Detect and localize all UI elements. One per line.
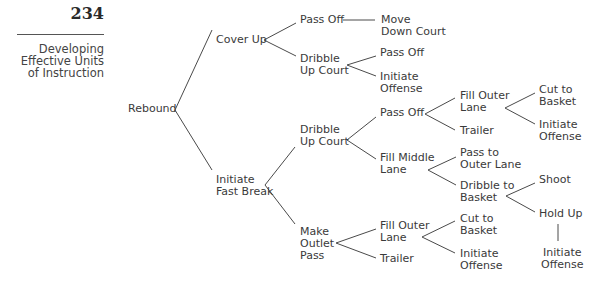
node-fb-fill-middle-lane: Fill Middle Lane bbox=[380, 152, 435, 176]
node-fb-dribble-up-court: Dribble Up Court bbox=[300, 124, 349, 148]
node-fb-dtb-hold-up: Hold Up bbox=[539, 208, 583, 220]
node-rebound: Rebound bbox=[128, 103, 177, 115]
node-fb-mop-fol-cut-to-basket: Cut to Basket bbox=[460, 213, 497, 237]
node-label: Offense bbox=[541, 259, 583, 271]
node-fb-mop-trailer: Trailer bbox=[380, 253, 414, 265]
connector-cu-dribble bbox=[347, 56, 376, 76]
connector-fb-pass-off bbox=[425, 98, 455, 130]
node-label: Trailer bbox=[380, 253, 414, 265]
node-cu-move-down-court: Move Down Court bbox=[381, 14, 446, 38]
node-fb-fml-dribble-to-basket: Dribble to Basket bbox=[460, 180, 514, 204]
node-label: Pass Off bbox=[380, 47, 424, 59]
node-label: Rebound bbox=[128, 103, 177, 115]
node-cu-duc-pass-off: Pass Off bbox=[380, 47, 424, 59]
node-label: Basket bbox=[539, 96, 576, 108]
node-fb-mop-fill-outer-lane: Fill Outer Lane bbox=[380, 220, 429, 244]
tree-connectors bbox=[0, 0, 595, 284]
node-fb-make-outlet-pass: Make Outlet Pass bbox=[300, 226, 334, 262]
node-label: Pass Off bbox=[380, 107, 424, 119]
node-cu-duc-initiate-offense: Initiate Offense bbox=[380, 71, 422, 95]
node-label: Hold Up bbox=[539, 208, 583, 220]
node-label: Offense bbox=[460, 260, 502, 272]
node-initiate-fast-break: Initiate Fast Break bbox=[216, 174, 273, 198]
node-fb-hu-initiate-offense: Initiate Offense bbox=[541, 247, 583, 271]
node-fb-po-fol-cut-to-basket: Cut to Basket bbox=[539, 84, 576, 108]
node-fb-mop-fol-initiate-offense: Initiate Offense bbox=[460, 248, 502, 272]
node-fb-po-trailer: Trailer bbox=[460, 125, 494, 137]
node-label: Pass Off bbox=[300, 14, 344, 26]
node-label: Lane bbox=[460, 102, 509, 114]
node-cover-up: Cover Up bbox=[216, 34, 267, 46]
connector-outlet-pass bbox=[336, 229, 376, 258]
connector-fb-dribble bbox=[347, 117, 376, 159]
node-fb-po-fol-initiate-offense: Initiate Offense bbox=[539, 119, 581, 143]
node-label: Offense bbox=[539, 131, 581, 143]
connector-fb-fill-outer bbox=[505, 93, 535, 124]
node-label: Down Court bbox=[381, 26, 446, 38]
node-label: Shoot bbox=[539, 174, 571, 186]
node-cu-dribble-up-court: Dribble Up Court bbox=[300, 53, 349, 77]
node-label: Offense bbox=[380, 83, 422, 95]
connector-rebound bbox=[175, 30, 212, 170]
node-label: Pass bbox=[300, 250, 334, 262]
node-fb-po-fill-outer-lane: Fill Outer Lane bbox=[460, 90, 509, 114]
node-cu-pass-off: Pass Off bbox=[300, 14, 344, 26]
node-label: Basket bbox=[460, 225, 497, 237]
connector-cover-up bbox=[264, 23, 296, 56]
node-label: Up Court bbox=[300, 65, 349, 77]
node-label: Up Court bbox=[300, 136, 349, 148]
node-label: Fast Break bbox=[216, 186, 273, 198]
node-label: Trailer bbox=[460, 125, 494, 137]
node-label: Outer Lane bbox=[460, 159, 521, 171]
node-fb-dtb-shoot: Shoot bbox=[539, 174, 571, 186]
node-label: Lane bbox=[380, 164, 435, 176]
node-label: Cover Up bbox=[216, 34, 267, 46]
node-label: Basket bbox=[460, 192, 514, 204]
node-fb-duc-pass-off: Pass Off bbox=[380, 107, 424, 119]
node-label: Lane bbox=[380, 232, 429, 244]
node-fb-fml-pass-to-outer-lane: Pass to Outer Lane bbox=[460, 147, 521, 171]
